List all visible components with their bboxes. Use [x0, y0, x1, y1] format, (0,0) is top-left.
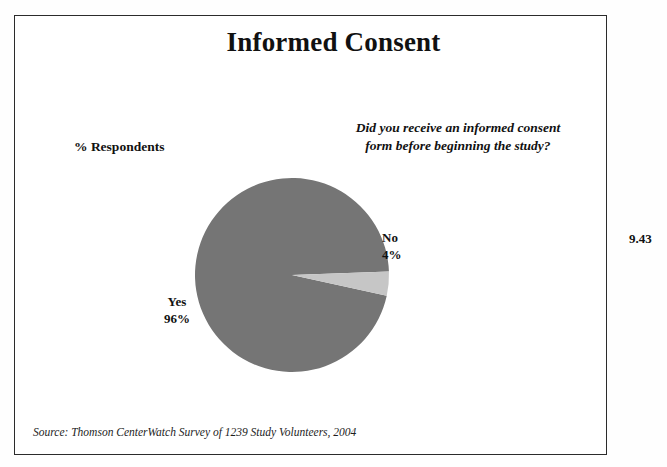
survey-question: Did you receive an informed consent form… [352, 119, 564, 155]
source-citation: Source: Thomson CenterWatch Survey of 12… [33, 426, 356, 438]
pie-label-yes: Yes 96% [148, 294, 206, 327]
pie-label-no-name: No [382, 230, 398, 245]
slide-frame [14, 15, 607, 455]
axis-label-respondents: % Respondents [74, 139, 164, 155]
figure-number: 9.43 [629, 231, 652, 247]
pie-label-no-value: 4% [382, 247, 402, 264]
pie-label-yes-name: Yes [168, 294, 187, 309]
page-title: Informed Consent [0, 27, 667, 58]
pie-label-yes-value: 96% [148, 311, 206, 328]
pie-label-no: No 4% [382, 230, 402, 263]
